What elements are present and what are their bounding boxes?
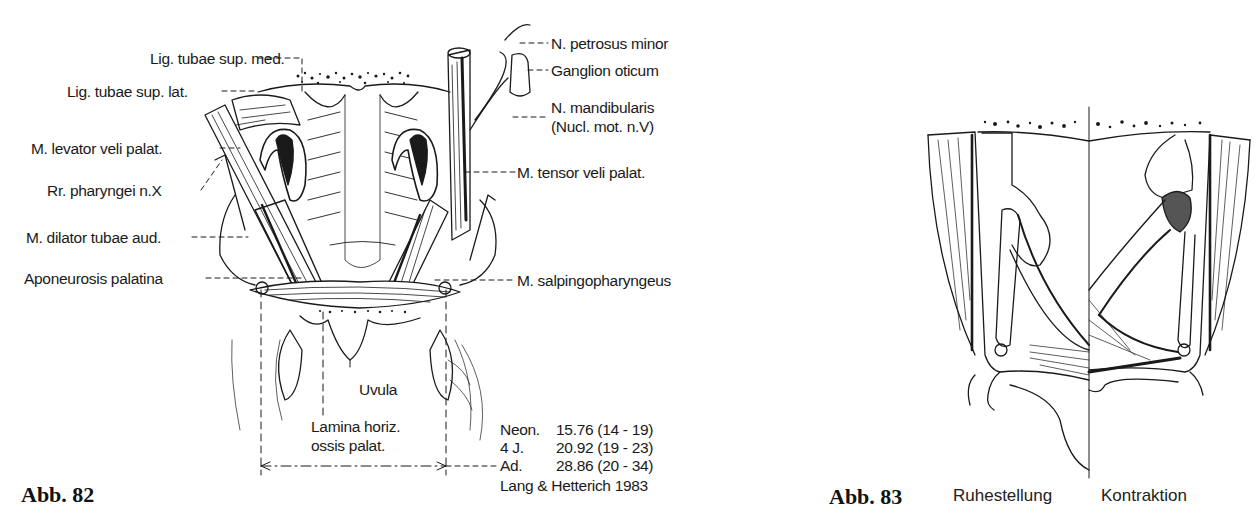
label-nucl-mot: (Nucl. mot. n.V) <box>551 118 654 135</box>
label-aponeurosis-palatina: Aponeurosis palatina <box>24 270 163 287</box>
label-lamina-line1: Lamina horiz. <box>311 418 400 435</box>
label-lig-tubae-sup-med: Lig. tubae sup. med. <box>150 50 284 67</box>
label-m-dilator-tubae-aud: M. dilator tubae aud. <box>26 229 161 246</box>
label-lamina-line2: ossis palat. <box>311 437 385 454</box>
figure-83-caption: Abb. 83 <box>829 484 902 510</box>
label-ganglion-oticum: Ganglion oticum <box>551 62 659 79</box>
label-lig-tubae-sup-lat: Lig. tubae sup. lat. <box>67 83 188 100</box>
label-rr-pharyngei: Rr. pharyngei n.X <box>47 182 162 199</box>
figure-82-caption: Abb. 82 <box>21 482 94 508</box>
measurement-row: Neon.15.76 (14 - 19) <box>500 421 653 439</box>
label-m-tensor-veli-palat: M. tensor veli palat. <box>517 164 645 181</box>
label-n-petrosus-minor: N. petrosus minor <box>551 35 668 52</box>
label-m-salpingopharyngeus: M. salpingopharyngeus <box>517 272 671 289</box>
measurement-row: Ad.28.86 (20 - 34) <box>500 457 653 475</box>
label-uvula: Uvula <box>359 381 397 398</box>
source-citation: Lang & Hetterich 1983 <box>500 477 653 495</box>
label-ruhestellung: Ruhestellung <box>953 486 1052 506</box>
label-m-levator-veli-palat: M. levator veli palat. <box>31 140 162 157</box>
label-n-mandibularis: N. mandibularis <box>551 99 654 116</box>
measurement-table: Neon.15.76 (14 - 19) 4 J.20.92 (19 - 23)… <box>500 421 653 495</box>
label-kontraktion: Kontraktion <box>1101 486 1187 506</box>
measurement-row: 4 J.20.92 (19 - 23) <box>500 439 653 457</box>
